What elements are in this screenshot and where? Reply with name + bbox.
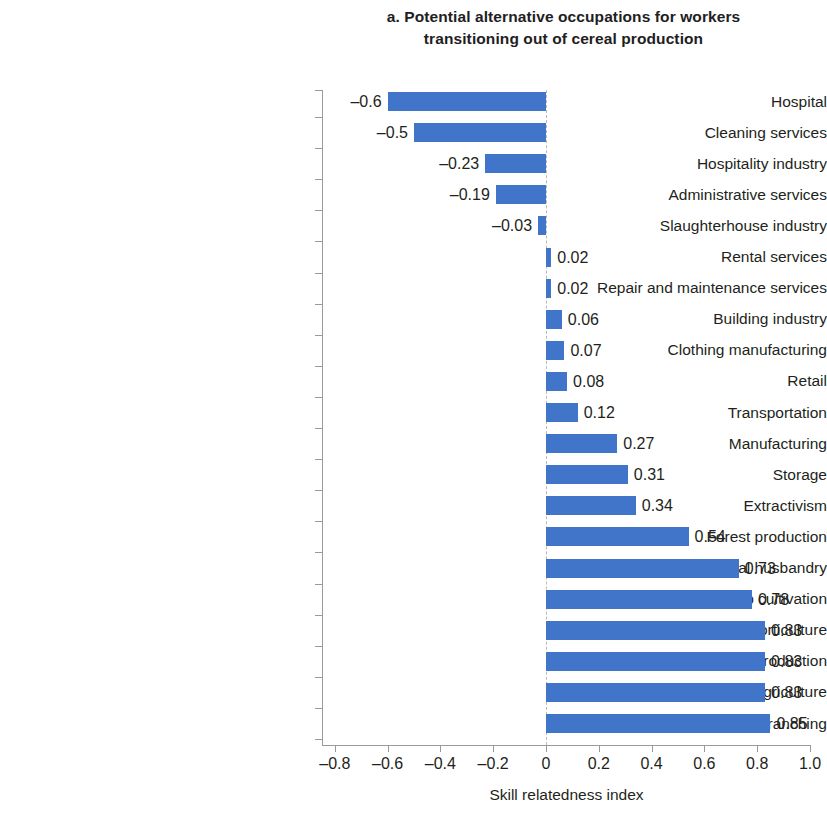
y-axis-tick xyxy=(315,148,322,149)
bar xyxy=(546,590,752,609)
bar-value-label: –0.5 xyxy=(377,123,408,142)
bar-value-label: 0.83 xyxy=(771,683,802,702)
x-axis-tick xyxy=(546,745,547,752)
category-label: Hospitality industry xyxy=(517,154,827,173)
bar xyxy=(546,434,617,453)
bar xyxy=(546,496,636,515)
bar xyxy=(414,123,546,142)
figure-panel-a: a. Potential alternative occupations for… xyxy=(0,0,827,817)
y-axis-tick xyxy=(315,677,322,678)
bar xyxy=(546,559,739,578)
x-axis-tick-label: 0.4 xyxy=(640,755,662,773)
bar-value-label: –0.19 xyxy=(450,185,490,204)
bar-value-label: 0.78 xyxy=(758,590,789,609)
bar-value-label: 0.83 xyxy=(771,652,802,671)
bar xyxy=(546,621,765,640)
bar-value-label: 0.02 xyxy=(557,248,588,267)
y-axis-tick xyxy=(315,646,322,647)
category-label: Cleaning services xyxy=(517,123,827,142)
x-axis-tick xyxy=(493,745,494,752)
y-axis-tick xyxy=(315,366,322,367)
y-axis-tick xyxy=(315,615,322,616)
plot-area: Hospital–0.6Cleaning services–0.5Hospita… xyxy=(0,0,827,817)
x-axis-tick-label: 0.2 xyxy=(588,755,610,773)
bar-value-label: 0.02 xyxy=(557,279,588,298)
x-axis-tick xyxy=(335,745,336,752)
category-label: Administrative services xyxy=(517,185,827,204)
y-axis-tick xyxy=(315,397,322,398)
bar xyxy=(546,279,551,298)
bar-value-label: 0.73 xyxy=(745,559,776,578)
y-axis-tick xyxy=(315,428,322,429)
y-axis-tick xyxy=(315,304,322,305)
y-axis-tick xyxy=(315,179,322,180)
x-axis-tick xyxy=(440,745,441,752)
x-axis-tick-label: 0.6 xyxy=(693,755,715,773)
x-axis-tick-label: 0 xyxy=(542,755,551,773)
x-axis-line xyxy=(322,745,811,746)
bar-value-label: 0.54 xyxy=(695,527,726,546)
bar xyxy=(496,185,546,204)
bar xyxy=(546,248,551,267)
bar xyxy=(546,372,567,391)
bar xyxy=(546,527,689,546)
bar-value-label: 0.06 xyxy=(568,310,599,329)
x-axis-tick-label: –0.4 xyxy=(425,755,456,773)
x-axis-tick xyxy=(388,745,389,752)
bar-value-label: 0.34 xyxy=(642,496,673,515)
x-axis-title: Skill relatedness index xyxy=(322,786,811,804)
bar xyxy=(546,465,628,484)
y-axis-tick xyxy=(315,552,322,553)
x-axis-tick xyxy=(704,745,705,752)
bar xyxy=(546,683,765,702)
y-axis-tick xyxy=(315,490,322,491)
y-axis-tick xyxy=(315,584,322,585)
bar-value-label: 0.12 xyxy=(584,403,615,422)
x-axis-tick xyxy=(652,745,653,752)
category-label: Slaughterhouse industry xyxy=(517,216,827,235)
bar-value-label: 0.08 xyxy=(573,372,604,391)
x-axis-tick-label: 0.8 xyxy=(746,755,768,773)
y-axis-tick xyxy=(315,90,322,91)
y-axis-line xyxy=(322,90,323,745)
y-axis-tick xyxy=(315,459,322,460)
bar-value-label: 0.31 xyxy=(634,465,665,484)
bar xyxy=(388,92,546,111)
bar-value-label: –0.03 xyxy=(492,216,532,235)
bar xyxy=(546,403,578,422)
y-axis-tick xyxy=(315,210,322,211)
y-axis-tick xyxy=(315,117,322,118)
x-axis-tick xyxy=(599,745,600,752)
bar-value-label: 0.85 xyxy=(776,714,807,733)
bar xyxy=(485,154,546,173)
bar-value-label: 0.07 xyxy=(570,341,601,360)
category-label: Building industry xyxy=(517,309,827,328)
bar-value-label: –0.23 xyxy=(439,154,479,173)
x-axis-tick xyxy=(810,745,811,752)
y-axis-tick xyxy=(315,708,322,709)
x-axis-tick xyxy=(757,745,758,752)
x-axis-tick-label: –0.6 xyxy=(372,755,403,773)
bar xyxy=(538,216,546,235)
x-axis-tick-label: 1.0 xyxy=(799,755,821,773)
y-axis-tick xyxy=(315,335,322,336)
y-axis-tick xyxy=(315,739,322,740)
bar xyxy=(546,310,562,329)
y-axis-tick xyxy=(315,521,322,522)
bar-value-label: 0.27 xyxy=(623,434,654,453)
bar-value-label: 0.83 xyxy=(771,621,802,640)
bar xyxy=(546,341,564,360)
bar xyxy=(546,714,770,733)
y-axis-tick xyxy=(315,241,322,242)
x-axis-tick-label: –0.2 xyxy=(478,755,509,773)
bar-value-label: –0.6 xyxy=(350,92,381,111)
category-label: Hospital xyxy=(517,92,827,111)
bar xyxy=(546,652,765,671)
y-axis-tick xyxy=(315,273,322,274)
x-axis-tick-label: –0.8 xyxy=(319,755,350,773)
